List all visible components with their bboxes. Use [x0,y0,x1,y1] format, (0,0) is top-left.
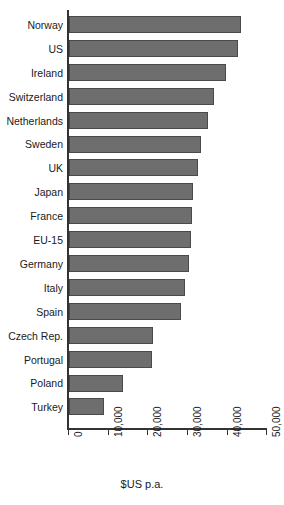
bar [69,255,189,272]
bar [69,303,181,320]
bar-category-label: Poland [0,377,63,389]
x-axis-tick [227,430,228,435]
bar-row: UK [0,156,284,180]
bar-row: Germany [0,252,284,276]
bar-row: Ireland [0,61,284,85]
x-axis-tick [68,430,69,435]
bar-category-label: EU-15 [0,234,63,246]
bar [69,231,191,248]
bar-category-label: Switzerland [0,91,63,103]
bar-row: Sweden [0,133,284,157]
bar-category-label: Czech Rep. [0,330,63,342]
bar-row: Italy [0,276,284,300]
bar-row: Netherlands [0,109,284,133]
bar-row: Switzerland [0,85,284,109]
bar [69,40,238,57]
bar [69,16,241,33]
plot-area: NorwayUSIrelandSwitzerlandNetherlandsSwe… [0,0,284,430]
bar [69,327,153,344]
x-axis-tick [266,430,267,435]
bar-row: EU-15 [0,228,284,252]
bar [69,375,123,392]
bar-category-label: Ireland [0,67,63,79]
bar-category-label: Spain [0,306,63,318]
x-axis-title: $US p.a. [0,478,284,490]
bar-category-label: Germany [0,258,63,270]
bar-category-label: Italy [0,282,63,294]
bar [69,88,214,105]
x-axis-tick-label: 10,000 [113,406,124,437]
bar-category-label: Japan [0,186,63,198]
x-axis-tick-label: 20,000 [152,406,163,437]
bar-row: US [0,37,284,61]
x-axis-tick-label: 30,000 [192,406,203,437]
x-axis-tick [147,430,148,435]
bar-chart: NorwayUSIrelandSwitzerlandNetherlandsSwe… [0,0,284,505]
bar [69,159,198,176]
bar-row: Spain [0,300,284,324]
bar-row: Czech Rep. [0,324,284,348]
x-axis-tick-label: 0 [73,431,84,437]
bar-row: France [0,204,284,228]
bar-category-label: Turkey [0,401,63,413]
bar [69,351,152,368]
bar-row: Poland [0,372,284,396]
bar-category-label: France [0,210,63,222]
x-axis-tick-label: 50,000 [271,406,282,437]
bar [69,398,104,415]
bar [69,183,193,200]
x-axis-tick [108,430,109,435]
bar-category-label: Norway [0,19,63,31]
bar [69,136,201,153]
bar-category-label: Portugal [0,354,63,366]
bar-category-label: UK [0,162,63,174]
bar-category-label: US [0,43,63,55]
bar [69,207,192,224]
x-axis-tick-label: 40,000 [232,406,243,437]
x-axis: $US p.a. 010,00020,00030,00040,00050,000 [0,428,284,505]
bar-row: Japan [0,180,284,204]
bar [69,112,208,129]
bar-category-label: Netherlands [0,115,63,127]
bar [69,64,226,81]
bar-row: Portugal [0,348,284,372]
x-axis-tick [187,430,188,435]
bar-category-label: Sweden [0,138,63,150]
bar-row: Norway [0,13,284,37]
bar [69,279,185,296]
